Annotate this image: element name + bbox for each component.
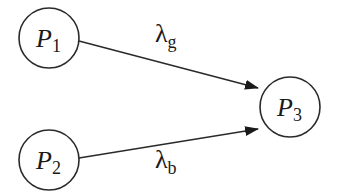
edge-label-lambda-g: λg	[155, 19, 177, 52]
node-p3: P3	[260, 77, 320, 137]
node-p1: P1	[19, 8, 79, 68]
diagram-canvas: λg λb P1 P2 P3	[0, 0, 346, 196]
arrow-line	[79, 129, 258, 158]
edge-label-lambda-b: λb	[155, 145, 177, 178]
edge-p1-p3: λg	[79, 19, 258, 88]
node-p2: P2	[19, 130, 79, 190]
edge-p2-p3: λb	[79, 129, 258, 178]
